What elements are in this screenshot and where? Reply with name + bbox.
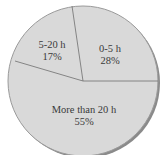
pie-chart: 0-5 h 28% 5-20 h 17% More than 20 h 55% <box>0 0 163 155</box>
slice-label-5-20h: 5-20 h <box>38 39 66 50</box>
slice-label-more-than-20h: More than 20 h <box>52 104 117 115</box>
slice-pct-5-20h: 17% <box>42 51 62 62</box>
slice-pct-0-5h: 28% <box>100 55 120 66</box>
slice-label-0-5h: 0-5 h <box>99 43 122 54</box>
slice-pct-more-than-20h: 55% <box>74 116 94 127</box>
